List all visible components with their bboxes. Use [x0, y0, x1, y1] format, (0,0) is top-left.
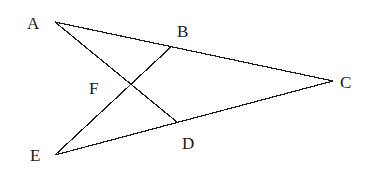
label-E: E — [30, 146, 40, 165]
geometry-diagram: A B C D E F — [0, 0, 376, 170]
label-D: D — [182, 134, 194, 153]
label-F: F — [89, 79, 98, 98]
segment-AC — [55, 22, 333, 81]
label-C: C — [340, 73, 351, 92]
label-B: B — [177, 22, 188, 41]
segment-EB — [55, 46, 172, 155]
label-A: A — [27, 14, 40, 33]
segment-AD — [55, 22, 177, 122]
